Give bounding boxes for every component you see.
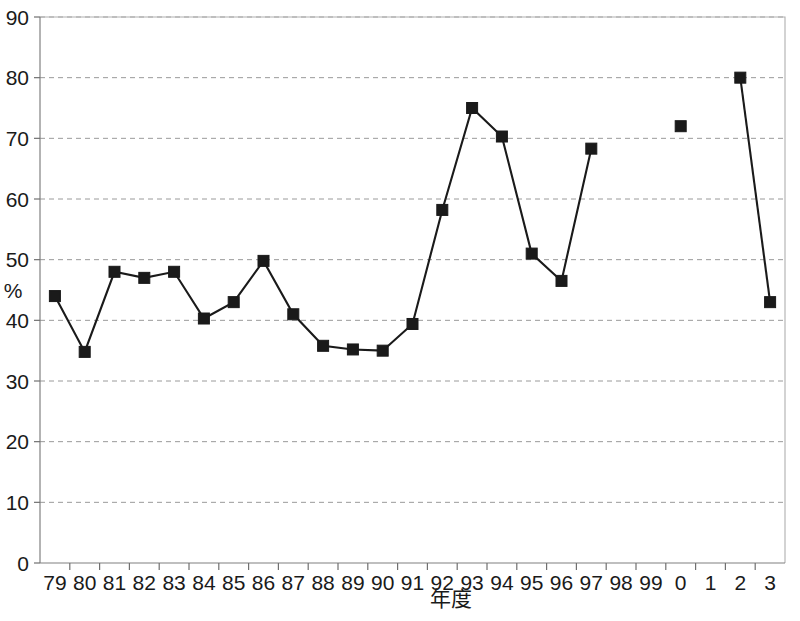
y-tick-label-10: 10 [6, 491, 29, 514]
y-tick-label-60: 60 [6, 188, 29, 211]
data-point-85 [228, 297, 239, 308]
x-tick-label-2: 2 [734, 571, 746, 594]
data-point-97 [586, 143, 597, 154]
x-tick-label-94: 94 [490, 571, 514, 594]
x-tick-label-88: 88 [311, 571, 334, 594]
x-tick-label-3: 3 [764, 571, 776, 594]
x-tick-label-99: 99 [639, 571, 662, 594]
x-tick-label-95: 95 [520, 571, 543, 594]
x-tick-label-90: 90 [371, 571, 394, 594]
chart-container: 0102030405060708090 79808182838485868788… [0, 0, 800, 621]
x-tick-label-89: 89 [341, 571, 364, 594]
data-point-96 [556, 275, 567, 286]
data-point-89 [347, 344, 358, 355]
data-point-94 [496, 131, 507, 142]
data-point-86 [258, 255, 269, 266]
y-tick-label-0: 0 [17, 552, 29, 575]
x-tick-label-85: 85 [222, 571, 245, 594]
data-point-92 [437, 204, 448, 215]
data-point-91 [407, 318, 418, 329]
x-tick-label-1: 1 [705, 571, 717, 594]
data-point-81 [109, 266, 120, 277]
x-tick-label-82: 82 [133, 571, 156, 594]
y-tick-label-80: 80 [6, 66, 29, 89]
data-point-0 [675, 121, 686, 132]
x-tick-label-0: 0 [675, 571, 687, 594]
line-chart: 0102030405060708090 79808182838485868788… [0, 0, 800, 621]
chart-background [0, 0, 800, 621]
x-tick-label-87: 87 [282, 571, 305, 594]
y-axis-title: % [4, 279, 23, 302]
data-point-83 [169, 266, 180, 277]
data-point-2 [735, 72, 746, 83]
data-point-95 [526, 248, 537, 259]
data-point-79 [49, 291, 60, 302]
data-point-87 [288, 309, 299, 320]
x-tick-label-97: 97 [580, 571, 603, 594]
y-tick-label-30: 30 [6, 370, 29, 393]
data-point-80 [79, 346, 90, 357]
data-point-82 [139, 272, 150, 283]
x-tick-label-80: 80 [73, 571, 96, 594]
x-tick-label-79: 79 [43, 571, 66, 594]
y-tick-label-50: 50 [6, 248, 29, 271]
x-tick-label-86: 86 [252, 571, 275, 594]
data-point-90 [377, 345, 388, 356]
y-tick-label-70: 70 [6, 127, 29, 150]
data-point-88 [318, 340, 329, 351]
data-point-84 [198, 313, 209, 324]
x-tick-label-83: 83 [162, 571, 185, 594]
x-tick-label-91: 91 [401, 571, 424, 594]
x-tick-label-84: 84 [192, 571, 216, 594]
x-tick-label-81: 81 [103, 571, 126, 594]
x-tick-label-96: 96 [550, 571, 573, 594]
x-axis-title: 年度 [430, 587, 472, 610]
y-tick-label-20: 20 [6, 430, 29, 453]
y-tick-label-90: 90 [6, 6, 29, 29]
y-tick-label-40: 40 [6, 309, 29, 332]
data-point-93 [467, 103, 478, 114]
data-point-3 [765, 297, 776, 308]
x-tick-label-98: 98 [609, 571, 632, 594]
